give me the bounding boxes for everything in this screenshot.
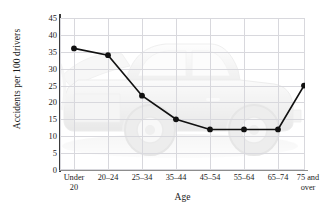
y-tick-label: 35 [3, 48, 57, 57]
data-point [139, 93, 145, 99]
x-tick-label-line1: Under [64, 173, 85, 182]
x-tick-label-line1: 35–44 [166, 173, 187, 182]
y-tick-label: 40 [3, 31, 57, 40]
y-axis-tick-labels: 45 40 35 30 25 20 15 10 5 0 [0, 0, 57, 207]
plot-area [60, 18, 305, 170]
x-axis-line [59, 170, 308, 171]
data-point [207, 127, 213, 133]
data-series [60, 18, 305, 170]
data-point [71, 46, 77, 52]
y-tick-label: 20 [3, 98, 57, 107]
x-tick-label-line1: 75 and [297, 173, 319, 182]
y-tick-label: 5 [3, 149, 57, 158]
data-point [105, 52, 111, 58]
series-line [74, 48, 304, 129]
y-tick-label: 15 [3, 115, 57, 124]
x-tick-label-line1: 45–54 [200, 173, 221, 182]
y-tick-label: 0 [3, 166, 57, 175]
x-tick-label-line1: 55–64 [234, 173, 255, 182]
data-point [275, 127, 281, 133]
data-point [301, 83, 305, 89]
data-point [173, 116, 179, 122]
x-tick-label-line1: 20–24 [98, 173, 119, 182]
y-tick-label: 25 [3, 82, 57, 91]
x-tick-label: 75 and over [285, 173, 328, 193]
x-axis-title: Age [60, 192, 305, 202]
chart-figure: Accidents per 100 drivers 45 40 35 30 25… [0, 0, 328, 207]
y-tick-label: 30 [3, 65, 57, 74]
y-tick-label: 45 [3, 14, 57, 23]
data-point [241, 127, 247, 133]
x-tick-label-line1: 25–34 [132, 173, 153, 182]
y-tick-label: 10 [3, 132, 57, 141]
series-markers [71, 46, 305, 133]
